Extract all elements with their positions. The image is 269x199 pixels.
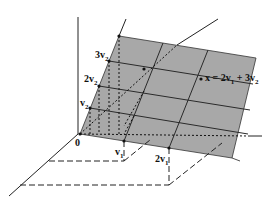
diagonal-extension [177,19,218,45]
v2-line-extension [119,19,126,36]
label-origin: 0 [75,137,80,148]
point-x [199,77,202,80]
label-v1: v1 [115,146,124,160]
depth-axis [9,134,78,196]
point-v1 [122,139,125,142]
label-3v2: 3v2 [95,49,109,63]
point-top [117,34,120,37]
span-diagram: 0 v2 2v2 3v2 v1 2v1 x = 2v1 + 3v2 [0,0,269,199]
point-origin [78,132,81,135]
label-2v2: 2v2 [84,73,98,87]
label-2v1: 2v1 [155,153,169,167]
point-2v2 [97,84,100,87]
v1-line-extension [232,158,240,161]
point-2v1 [167,146,170,149]
label-v2: v2 [80,97,89,111]
point-mid [142,67,145,70]
point-v2 [88,106,91,109]
